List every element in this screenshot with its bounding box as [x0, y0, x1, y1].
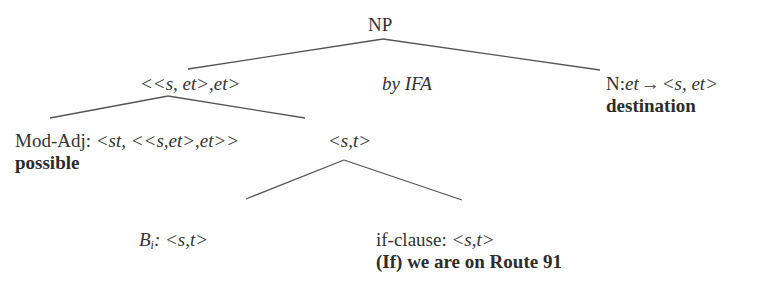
n-prefix: N: — [606, 73, 625, 94]
edge-st-bi — [246, 160, 344, 199]
root-node-np: NP — [368, 14, 392, 36]
edge-left-st — [168, 96, 305, 118]
possible-word: possible — [15, 152, 239, 174]
destination-word: destination — [606, 95, 718, 117]
left-type-label: <<s, et>,et> — [140, 73, 240, 94]
n-type-to: <s, et> — [662, 73, 718, 94]
if-clause-words: (If) we are on Route 91 — [376, 251, 562, 273]
bi-type: : <s,t> — [154, 229, 208, 250]
edge-np-right — [383, 39, 600, 70]
mod-adj-node: Mod-Adj: <st, <<s,et>,et>> possible — [15, 130, 239, 174]
by-ifa-annotation: by IFA — [382, 73, 432, 95]
st-node: <s,t> — [328, 130, 371, 152]
arrow-icon: → — [641, 73, 660, 94]
st-type-label: <s,t> — [328, 130, 371, 151]
mod-adj-type: <st, <<s,et>,et>> — [96, 130, 239, 151]
edge-left-modadj — [50, 96, 168, 118]
bi-node: Bi: <s,t> — [139, 229, 208, 256]
if-clause-type: <s,t> — [451, 229, 494, 250]
right-node-n: N:et→<s, et> destination — [606, 73, 718, 117]
left-node-type: <<s, et>,et> — [140, 73, 240, 95]
if-clause-prefix: if-clause: — [376, 229, 451, 250]
n-type-from: et — [625, 73, 639, 94]
mod-adj-prefix: Mod-Adj: — [15, 130, 96, 151]
bi-label: B — [139, 229, 151, 250]
edge-np-left — [188, 39, 383, 69]
by-ifa-label: by IFA — [382, 73, 432, 94]
if-clause-node: if-clause: <s,t> (If) we are on Route 91 — [376, 229, 562, 273]
np-label: NP — [368, 14, 392, 35]
edge-st-ifclause — [344, 160, 462, 200]
